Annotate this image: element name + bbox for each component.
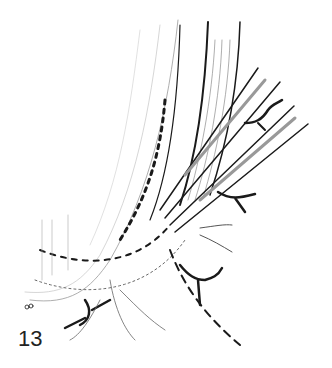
surgical-illustration bbox=[0, 0, 332, 368]
figure-number: 13 bbox=[18, 326, 42, 352]
